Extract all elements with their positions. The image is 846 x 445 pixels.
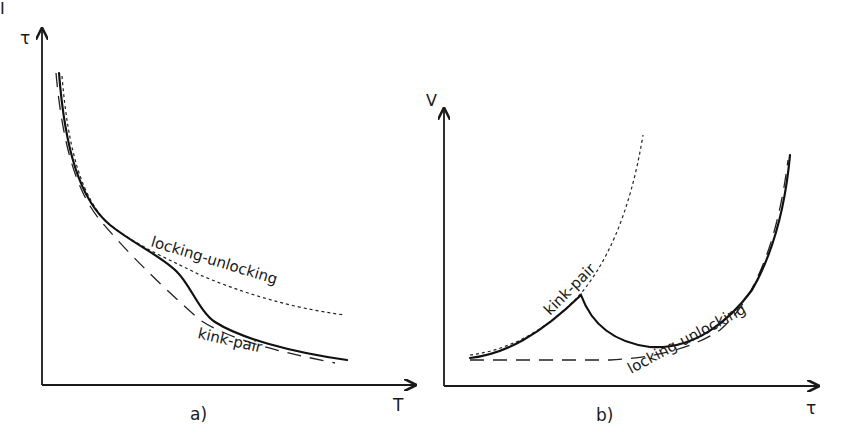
panel-b-caption: b) — [596, 405, 613, 425]
panel-b-observed-curve — [470, 155, 790, 358]
panel-b: V τ b) kink-pair locking-unlocking — [426, 91, 817, 425]
panel-a-kink-pair-curve — [56, 73, 335, 363]
panel-b-y-label: V — [426, 91, 437, 110]
figure-canvas: I τ T a) locking-unlocking kink-pair V τ… — [0, 0, 846, 445]
panel-a-locking-unlocking-curve — [62, 76, 345, 315]
panel-b-kink-pair-curve — [470, 135, 643, 355]
panel-a: τ T a) locking-unlocking kink-pair — [20, 28, 414, 424]
panel-a-locking-unlocking-label: locking-unlocking — [149, 233, 280, 289]
panel-b-kink-pair-label: kink-pair — [540, 259, 600, 319]
panel-b-locking-unlocking-label: locking-unlocking — [624, 300, 748, 378]
corner-mark: I — [0, 0, 5, 18]
panel-b-x-label: τ — [806, 398, 816, 418]
panel-b-locking-unlocking-curve — [470, 160, 788, 360]
panel-a-y-label: τ — [20, 28, 30, 48]
panel-a-observed-curve — [59, 73, 347, 360]
panel-a-x-label: T — [392, 395, 404, 415]
panel-a-caption: a) — [190, 404, 207, 424]
